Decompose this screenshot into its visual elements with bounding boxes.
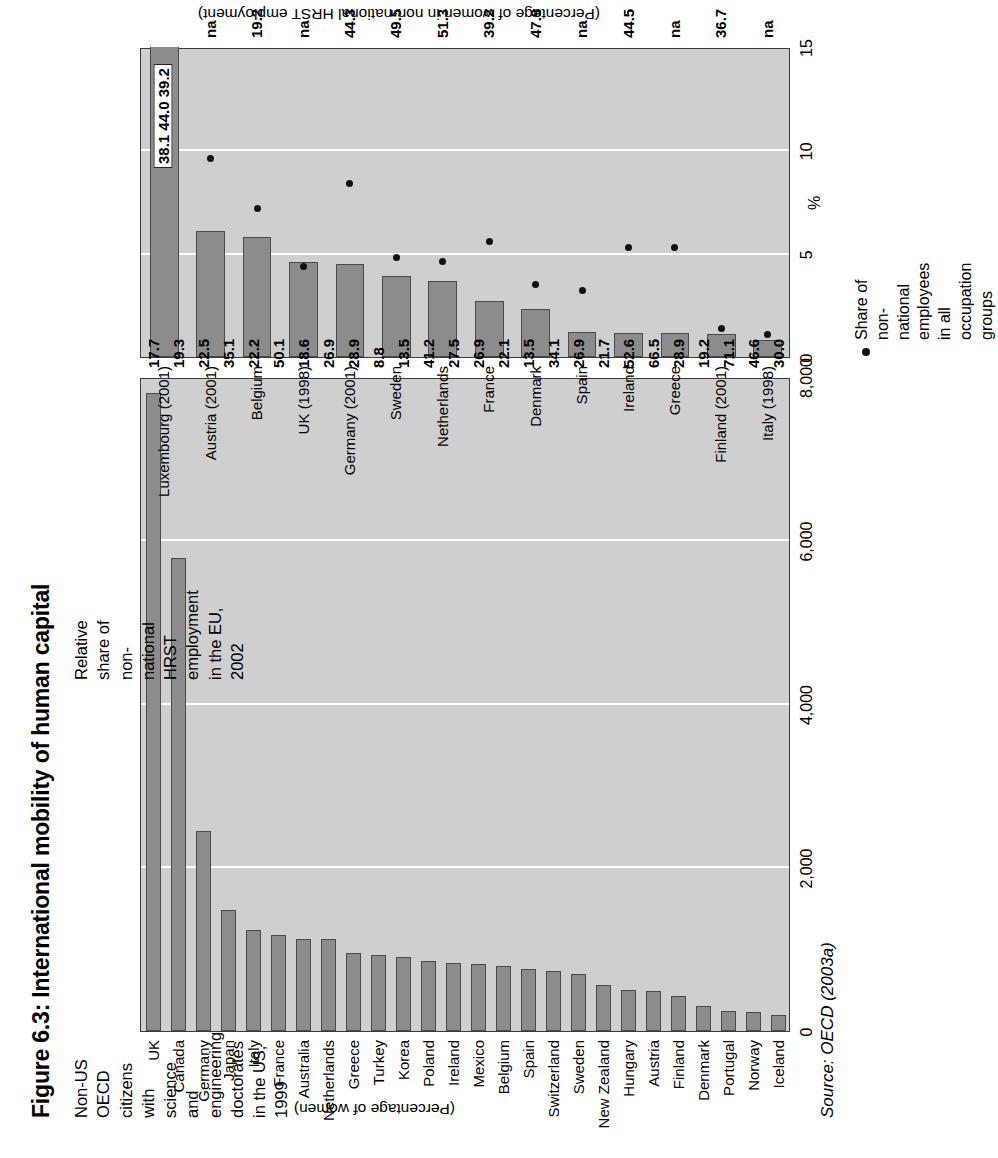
bar-value-label: 22.1 — [494, 339, 511, 368]
bar-value-label: 44.3 — [340, 9, 357, 38]
right-axis-unit: % — [806, 196, 824, 210]
gridline — [141, 253, 789, 255]
left-plot-area — [140, 378, 790, 1032]
category-label: Luxembourg (2001) — [155, 366, 172, 1158]
bar — [321, 939, 337, 1031]
bar-value-label: 17.7 — [144, 339, 161, 368]
category-label: Switzerland — [544, 1040, 561, 1158]
bar-value-label: 8.8 — [369, 347, 386, 368]
category-label: France — [480, 366, 497, 1158]
gridline — [141, 149, 789, 151]
data-point-marker — [207, 155, 214, 162]
right-chart-legend: Share of non-national employees in all o… — [852, 263, 998, 340]
category-label: Spain — [573, 366, 590, 1158]
data-point-marker — [486, 238, 493, 245]
bar-value-label: 18.6 — [294, 339, 311, 368]
gridline — [141, 46, 789, 48]
bar-value-label: 41.2 — [419, 339, 436, 368]
bar-value-label: 50.1 — [269, 339, 286, 368]
bar-value-label: 19.2 — [694, 339, 711, 368]
axis-tick-label: 5 — [798, 250, 816, 259]
bar — [496, 966, 512, 1031]
category-label: Germany (2001) — [340, 366, 357, 1158]
legend-marker-icon — [862, 348, 870, 356]
data-point-marker — [254, 205, 261, 212]
data-point-marker — [764, 331, 771, 338]
bar-value-label: na — [201, 20, 218, 38]
bar-value-label: 36.7 — [712, 9, 729, 38]
bar — [271, 935, 287, 1031]
bar-value-label: 22.5 — [194, 339, 211, 368]
category-label: Netherlands — [433, 366, 450, 1158]
data-point-marker — [579, 287, 586, 294]
bar-value-label: 39.2 — [480, 9, 497, 38]
axis-tick-label: 8,000 — [798, 358, 816, 398]
axis-tick-label: 0 — [798, 354, 816, 363]
bar-value-label: 26.9 — [469, 339, 486, 368]
category-label: Austria (2001) — [201, 366, 218, 1158]
bar-value-label: 51.3 — [433, 9, 450, 38]
bar-value-label: 26.9 — [319, 339, 336, 368]
gridline — [141, 703, 789, 705]
data-point-marker — [532, 281, 539, 288]
right-plot-area — [140, 48, 790, 358]
bar-value-label: 28.9 — [669, 339, 686, 368]
category-label: Ireland — [619, 366, 636, 1158]
category-label: Greece — [665, 366, 682, 1158]
category-label: Belgium — [248, 366, 265, 1158]
bar-value-label: na — [665, 20, 682, 38]
bar-value-label: 26.9 — [569, 339, 586, 368]
bar — [546, 971, 562, 1031]
bar-value-label: 27.5 — [444, 339, 461, 368]
gridline — [141, 867, 789, 869]
data-point-marker — [346, 180, 353, 187]
axis-tick-label: 6,000 — [798, 521, 816, 561]
category-label: France — [269, 1040, 286, 1158]
bar-value-label: 34.1 — [544, 339, 561, 368]
category-label: Japan — [219, 1040, 236, 1158]
data-point-marker — [300, 263, 307, 270]
category-label: Finland (2001) — [712, 366, 729, 1158]
bar-value-label: 22.2 — [244, 339, 261, 368]
gridline — [141, 376, 789, 378]
category-label: Denmark — [526, 366, 543, 1158]
data-point-marker — [625, 244, 632, 251]
data-point-marker — [718, 325, 725, 332]
gridline — [141, 540, 789, 542]
bar — [646, 991, 662, 1031]
axis-tick-label: 10 — [798, 142, 816, 160]
bar-value-label: 28.9 — [344, 339, 361, 368]
data-point-marker — [671, 244, 678, 251]
bar — [371, 955, 387, 1031]
bar-value-label: 44.5 — [619, 9, 636, 38]
category-label: Turkey — [369, 1040, 386, 1158]
bar-value-label: na — [573, 20, 590, 38]
category-label: Netherlands — [319, 1040, 336, 1158]
bar-value-label: 19.3 — [169, 339, 186, 368]
bar-value-label: 38.1 44.0 39.2 — [154, 64, 173, 168]
category-label: Italy (1998) — [758, 366, 775, 1158]
category-label: Sweden — [387, 366, 404, 1158]
bar-value-label: 13.5 — [394, 339, 411, 368]
axis-tick-label: 4,000 — [798, 685, 816, 725]
category-label: UK (1998) — [294, 366, 311, 1158]
bar-value-label: na — [758, 20, 775, 38]
bar-value-label: 35.1 — [219, 339, 236, 368]
bar — [696, 1006, 712, 1031]
data-point-marker — [393, 254, 400, 261]
data-point-marker — [439, 258, 446, 265]
bar-value-label: 49.5 — [387, 9, 404, 38]
bar-value-label: 52.6 — [619, 339, 636, 368]
axis-tick-label: 0 — [798, 1028, 816, 1037]
axis-tick-label: 2,000 — [798, 848, 816, 888]
bar-value-label: 71.1 — [719, 339, 736, 368]
bar-value-label: 46.6 — [744, 339, 761, 368]
bar-value-label: 66.5 — [644, 339, 661, 368]
bar — [221, 910, 237, 1031]
axis-tick-label: 15 — [798, 39, 816, 57]
bar-value-label: 47.9 — [526, 9, 543, 38]
category-label: Austria — [644, 1040, 661, 1158]
bar — [596, 985, 612, 1031]
bar-value-label: na — [294, 20, 311, 38]
